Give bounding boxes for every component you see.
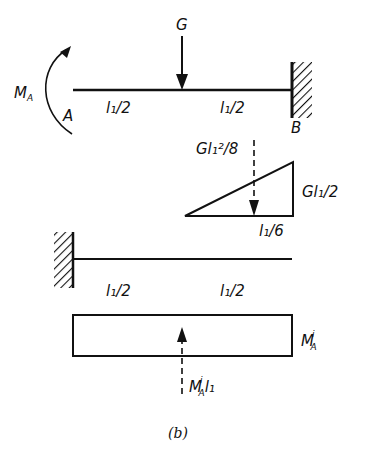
conjugate-right-span-label: l₁/2 <box>220 282 245 300</box>
fixed-support-left-hatch <box>54 232 72 288</box>
unit-moment-diagram: MiA MiAl₁ <box>73 315 317 398</box>
load-arrow-icon <box>176 36 188 90</box>
moment-triangle <box>185 162 293 216</box>
beam-diagram: G MA A B l₁/2 l₁/2 Gl₁²/8 Gl₁/2 l₁/6 l₁/… <box>0 0 371 453</box>
height-label: Gl₁/2 <box>302 183 338 201</box>
top-beam-group: G MA A B l₁/2 l₁/2 <box>14 16 312 137</box>
resultant-arrow-icon <box>249 200 259 216</box>
moment-label: MA <box>14 84 33 103</box>
load-label: G <box>176 16 188 34</box>
conjugate-beam-group: l₁/2 l₁/2 <box>54 232 292 300</box>
conjugate-left-span-label: l₁/2 <box>106 282 131 300</box>
top-right-span-label: l₁/2 <box>220 99 245 117</box>
unit-resultant-label: MiAl₁ <box>189 375 215 398</box>
figure-caption: (b) <box>168 425 188 441</box>
end-a-label: A <box>62 107 73 125</box>
top-left-span-label: l₁/2 <box>106 99 131 117</box>
unit-resultant-arrow-icon <box>177 327 187 342</box>
unit-height-label: MiA <box>301 329 317 352</box>
fixed-support-b-hatch <box>293 62 312 118</box>
moment-diagram: Gl₁²/8 Gl₁/2 l₁/6 <box>185 140 338 240</box>
offset-label: l₁/6 <box>259 222 284 240</box>
end-b-label: B <box>291 119 301 137</box>
resultant-label: Gl₁²/8 <box>196 140 238 158</box>
